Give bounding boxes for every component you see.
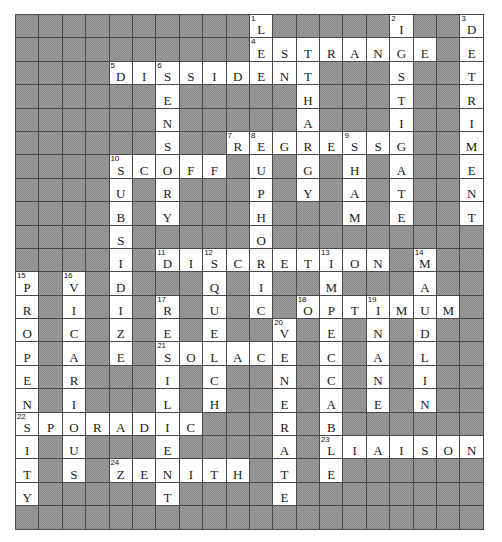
crossword-cell-open[interactable]: E (156, 85, 179, 108)
crossword-cell-open[interactable]: T (156, 483, 179, 506)
crossword-cell-open[interactable]: E (250, 62, 273, 85)
crossword-cell-open[interactable]: N (156, 459, 179, 482)
crossword-cell-open[interactable]: S (414, 436, 437, 459)
crossword-cell-open[interactable]: T (460, 62, 483, 85)
crossword-cell-open[interactable]: I (180, 459, 203, 482)
crossword-cell-open[interactable]: O (180, 342, 203, 365)
crossword-cell-open[interactable]: T (297, 249, 320, 272)
crossword-cell-open[interactable]: E (320, 132, 343, 155)
crossword-cell-open[interactable]: 5D (110, 62, 133, 85)
crossword-cell-open[interactable]: O (250, 226, 273, 249)
crossword-cell-open[interactable]: L (203, 342, 226, 365)
crossword-cell-open[interactable]: N (414, 389, 437, 412)
crossword-cell-open[interactable]: S (110, 226, 133, 249)
crossword-cell-open[interactable]: R (273, 413, 296, 436)
crossword-cell-open[interactable]: H (250, 202, 273, 225)
crossword-cell-open[interactable]: O (437, 436, 460, 459)
crossword-cell-open[interactable]: N (367, 38, 390, 61)
crossword-cell-open[interactable]: S (156, 132, 179, 155)
crossword-cell-open[interactable]: I (156, 366, 179, 389)
crossword-cell-open[interactable]: E (110, 342, 133, 365)
crossword-cell-open[interactable]: 6S (156, 62, 179, 85)
crossword-cell-open[interactable]: C (320, 342, 343, 365)
crossword-cell-open[interactable]: 7R (227, 132, 250, 155)
crossword-cell-open[interactable]: A (297, 109, 320, 132)
crossword-cell-open[interactable]: N (460, 179, 483, 202)
crossword-cell-open[interactable]: 16V (63, 272, 86, 295)
crossword-cell-open[interactable]: 21S (156, 342, 179, 365)
crossword-cell-open[interactable]: I (460, 109, 483, 132)
crossword-cell-open[interactable]: F (180, 155, 203, 178)
crossword-cell-open[interactable]: I (390, 436, 413, 459)
crossword-cell-open[interactable]: Q (203, 272, 226, 295)
crossword-cell-open[interactable]: 14M (414, 249, 437, 272)
crossword-cell-open[interactable]: P (39, 413, 62, 436)
crossword-cell-open[interactable]: 23L (320, 436, 343, 459)
crossword-cell-open[interactable]: P (320, 296, 343, 319)
crossword-cell-open[interactable]: A (110, 413, 133, 436)
crossword-cell-open[interactable]: I (203, 62, 226, 85)
crossword-cell-open[interactable]: U (250, 155, 273, 178)
crossword-cell-open[interactable]: L (414, 342, 437, 365)
crossword-cell-open[interactable]: E (156, 436, 179, 459)
crossword-cell-open[interactable]: P (16, 342, 39, 365)
crossword-cell-open[interactable]: R (320, 38, 343, 61)
crossword-cell-open[interactable]: D (133, 413, 156, 436)
crossword-cell-open[interactable]: A (367, 342, 390, 365)
crossword-cell-open[interactable]: E (203, 319, 226, 342)
crossword-cell-open[interactable]: G (297, 155, 320, 178)
crossword-cell-open[interactable]: N (367, 319, 390, 342)
crossword-cell-open[interactable]: C (133, 155, 156, 178)
crossword-cell-open[interactable]: I (156, 413, 179, 436)
crossword-cell-open[interactable]: I (390, 109, 413, 132)
crossword-cell-open[interactable]: R (16, 296, 39, 319)
crossword-cell-open[interactable]: I (110, 249, 133, 272)
crossword-cell-open[interactable]: N (367, 249, 390, 272)
crossword-cell-open[interactable]: S (390, 62, 413, 85)
crossword-cell-open[interactable]: G (390, 132, 413, 155)
crossword-cell-open[interactable]: E (273, 483, 296, 506)
crossword-cell-open[interactable]: U (203, 296, 226, 319)
crossword-cell-open[interactable]: U (110, 179, 133, 202)
crossword-cell-open[interactable]: E (273, 249, 296, 272)
crossword-cell-open[interactable]: O (16, 319, 39, 342)
crossword-cell-open[interactable]: H (203, 389, 226, 412)
crossword-cell-open[interactable]: 17R (156, 296, 179, 319)
crossword-cell-open[interactable]: C (227, 249, 250, 272)
crossword-cell-open[interactable]: I (16, 436, 39, 459)
crossword-cell-open[interactable]: S (273, 38, 296, 61)
crossword-cell-open[interactable]: R (156, 179, 179, 202)
crossword-cell-open[interactable]: C (63, 319, 86, 342)
crossword-cell-open[interactable]: N (273, 62, 296, 85)
crossword-cell-open[interactable]: T (390, 179, 413, 202)
crossword-cell-open[interactable]: C (250, 296, 273, 319)
crossword-cell-open[interactable]: O (343, 249, 366, 272)
crossword-cell-open[interactable]: E (460, 38, 483, 61)
crossword-cell-open[interactable]: O (63, 413, 86, 436)
crossword-cell-open[interactable]: M (437, 296, 460, 319)
crossword-cell-open[interactable]: E (273, 389, 296, 412)
crossword-cell-open[interactable]: A (320, 389, 343, 412)
crossword-cell-open[interactable]: E (320, 459, 343, 482)
crossword-cell-open[interactable]: M (390, 296, 413, 319)
crossword-cell-open[interactable]: E (320, 319, 343, 342)
crossword-cell-open[interactable]: C (320, 366, 343, 389)
crossword-cell-open[interactable]: H (343, 155, 366, 178)
crossword-cell-open[interactable]: E (156, 319, 179, 342)
crossword-cell-open[interactable]: Y (297, 179, 320, 202)
crossword-cell-open[interactable]: I (133, 62, 156, 85)
crossword-cell-open[interactable]: R (63, 366, 86, 389)
crossword-cell-open[interactable]: E (367, 389, 390, 412)
crossword-cell-open[interactable]: N (16, 389, 39, 412)
crossword-cell-open[interactable]: Z (110, 319, 133, 342)
crossword-cell-open[interactable]: T (203, 459, 226, 482)
crossword-cell-open[interactable]: 10S (110, 155, 133, 178)
crossword-cell-open[interactable]: 11D (156, 249, 179, 272)
crossword-cell-open[interactable]: D (227, 62, 250, 85)
crossword-cell-open[interactable]: T (297, 62, 320, 85)
crossword-cell-open[interactable]: 2I (390, 15, 413, 38)
crossword-cell-open[interactable]: C (203, 366, 226, 389)
crossword-cell-open[interactable]: F (203, 155, 226, 178)
crossword-cell-open[interactable]: G (273, 132, 296, 155)
crossword-cell-open[interactable]: Y (16, 483, 39, 506)
